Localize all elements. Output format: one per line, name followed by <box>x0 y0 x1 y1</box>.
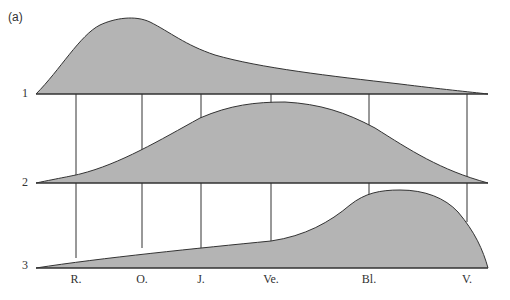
diagram-figure: (a) 1 2 3 R. O. J. Ve. Bl. V. <box>0 0 510 300</box>
column-label-r: R. <box>70 272 81 287</box>
column-label-j: J. <box>197 272 205 287</box>
column-label-v: V. <box>462 272 472 287</box>
curve-3 <box>36 190 488 268</box>
curve-2 <box>36 102 488 183</box>
diagram-svg <box>0 0 510 300</box>
panel-label: (a) <box>8 10 23 24</box>
row-label-1: 1 <box>22 86 28 101</box>
row-label-2: 2 <box>22 175 28 190</box>
column-label-ve: Ve. <box>263 272 279 287</box>
column-label-o: O. <box>136 272 148 287</box>
row-label-3: 3 <box>22 258 28 273</box>
curve-1 <box>36 18 488 94</box>
column-label-bl: Bl. <box>362 272 376 287</box>
